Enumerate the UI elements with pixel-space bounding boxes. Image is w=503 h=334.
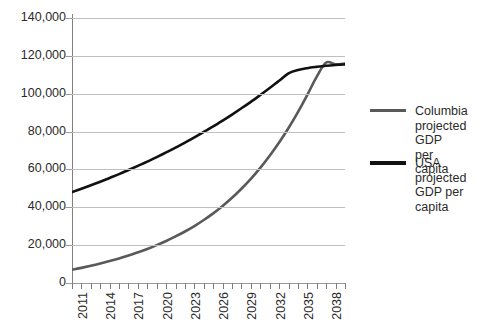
gdp-projection-chart: 140,000120,000100,00080,00060,00040,0002…: [0, 0, 503, 334]
x-axis-tick: [119, 283, 120, 289]
x-axis-tick: [81, 283, 82, 289]
x-axis-tick: [128, 283, 129, 289]
x-axis-tick: [289, 283, 290, 289]
x-axis-tick-label: 2017: [133, 292, 146, 320]
x-axis-tick-label: 2032: [275, 292, 288, 320]
series-layer: [72, 18, 345, 283]
y-axis-tick-label: 60,000: [2, 162, 66, 174]
x-axis-tick: [251, 283, 252, 289]
x-axis-tick: [223, 283, 224, 289]
legend-color-swatch: [370, 161, 406, 165]
gridline: [72, 56, 345, 57]
x-axis-tick-label: 2011: [77, 292, 90, 319]
x-axis-tick: [157, 283, 158, 289]
x-axis-tick: [336, 283, 337, 289]
gridline: [72, 207, 345, 208]
y-axis-label-group: 140,000120,000100,00080,00060,00040,0002…: [0, 0, 66, 334]
x-axis-tick: [317, 283, 318, 289]
y-axis-tick-label: 100,000: [2, 87, 66, 99]
x-axis-tick: [307, 283, 308, 289]
x-axis-tick: [241, 283, 242, 289]
gridline: [72, 245, 345, 246]
y-axis-tick-label: 140,000: [2, 11, 66, 23]
y-axis-tick-label: 0: [2, 276, 66, 288]
x-axis-tick: [194, 283, 195, 289]
x-axis-tick: [147, 283, 148, 289]
y-axis-tick-label: 80,000: [2, 125, 66, 137]
x-axis-tick-group: [72, 283, 345, 290]
x-axis-tick: [166, 283, 167, 289]
x-axis-tick: [91, 283, 92, 289]
x-axis-tick: [298, 283, 299, 289]
gridline: [72, 132, 345, 133]
x-axis-tick: [110, 283, 111, 289]
legend-color-swatch: [370, 109, 406, 112]
x-axis-tick: [279, 283, 280, 289]
y-axis-tick-label: 40,000: [2, 200, 66, 212]
x-axis-tick: [345, 283, 346, 289]
x-axis-tick-label: 2023: [190, 292, 203, 320]
series-line: [72, 64, 345, 192]
x-axis-tick: [204, 283, 205, 289]
x-axis-tick-label: 2029: [246, 292, 259, 320]
x-axis-tick: [72, 283, 73, 289]
legend-label: USA projected GDP per capita: [415, 156, 466, 214]
gridline: [72, 94, 345, 95]
x-axis-tick: [270, 283, 271, 289]
x-axis-tick-label: 2020: [162, 292, 175, 320]
x-axis-tick: [138, 283, 139, 289]
x-axis-tick: [185, 283, 186, 289]
y-axis-tick-label: 120,000: [2, 49, 66, 61]
x-axis-tick: [260, 283, 261, 289]
x-axis-tick: [213, 283, 214, 289]
x-axis-tick: [176, 283, 177, 289]
gridline: [72, 169, 345, 170]
x-axis-tick: [100, 283, 101, 289]
x-axis-tick-label: 2038: [331, 292, 344, 320]
x-axis-tick-label: 2035: [303, 292, 316, 320]
x-axis-tick: [232, 283, 233, 289]
x-axis-tick-label: 2014: [105, 292, 118, 320]
y-axis-tick-label: 20,000: [2, 238, 66, 250]
legend-entry[interactable]: USA projected GDP per capita: [370, 156, 466, 214]
x-axis-tick: [326, 283, 327, 289]
x-axis-tick-label: 2026: [218, 292, 231, 320]
gridline: [72, 18, 345, 19]
plot-area: [72, 18, 345, 283]
